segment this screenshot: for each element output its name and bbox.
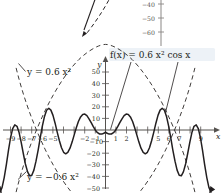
x-tick-label-1: 1 xyxy=(114,135,118,143)
fragment-axis xyxy=(158,0,164,46)
x-tick-label--7: −7 xyxy=(27,135,36,143)
x-tick-label-5: 5 xyxy=(156,135,160,143)
y-tick-label-40: 40 xyxy=(92,80,100,88)
function-label: f(x) = 0.6 x² cos x xyxy=(110,50,190,60)
fragment-curves xyxy=(82,0,112,37)
fragment-tick--40: −40 xyxy=(142,1,155,8)
cropped-chart-fragment: −40 −50 −60 xyxy=(0,0,224,46)
y-axis-label: y xyxy=(96,60,102,69)
curve-arrow-right xyxy=(209,186,215,193)
leader-upper-envelope xyxy=(19,64,26,72)
y-tick-label--10: −10 xyxy=(90,138,104,146)
y-tick-label-10: 10 xyxy=(92,115,100,123)
figure-page: −40 −50 −60 xyxy=(0,0,224,193)
y-tick-label--30: −30 xyxy=(87,161,101,169)
y-axis-arrow xyxy=(103,56,109,62)
y-tick-label--50: −50 xyxy=(87,185,101,193)
y-tick-label--40: −40 xyxy=(87,173,101,181)
x-tick-label--2: −2 xyxy=(80,135,89,143)
graph-svg: −9 −8 −7 −6 −5 −2 −1 1 2 5 6 7 9 xyxy=(0,46,224,193)
x-tick-label-2: 2 xyxy=(124,135,128,143)
y-tick-label-20: 20 xyxy=(92,103,100,111)
x-tick-label--5: −5 xyxy=(48,135,57,143)
y-tick-label-50: 50 xyxy=(92,68,100,76)
leader-to-left-peak xyxy=(111,62,132,130)
fragment-tick--50: −50 xyxy=(142,15,155,22)
y-tick-label--20: −20 xyxy=(87,150,101,158)
y-tick-label-30: 30 xyxy=(92,92,100,100)
main-graph: −9 −8 −7 −6 −5 −2 −1 1 2 5 6 7 9 xyxy=(0,46,224,193)
fragment-svg: −40 −50 −60 xyxy=(0,0,224,46)
leader-to-right-peak xyxy=(166,62,179,113)
lower-envelope-label: y = −0.6 x² xyxy=(26,172,79,182)
fragment-tick--60: −60 xyxy=(142,29,155,36)
leader-lower-envelope xyxy=(18,172,27,180)
x-axis-label: x xyxy=(216,132,221,141)
upper-envelope-label: y = 0.6 x² xyxy=(26,67,72,77)
